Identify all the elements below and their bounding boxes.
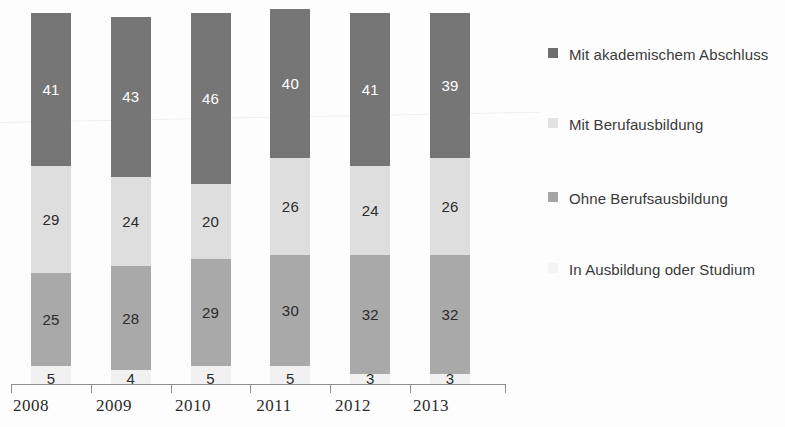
legend-swatch-none-icon	[548, 192, 558, 202]
x-axis-tick-3	[250, 384, 251, 393]
bar-group-2010: 4620295	[191, 13, 231, 385]
legend-item-none[interactable]: Ohne Berufsausbildung	[548, 188, 785, 209]
bar-segment-2010-academic: 46	[191, 13, 231, 184]
bar-segment-2010-none: 29	[191, 259, 231, 367]
bar-group-2009: 4324284	[111, 17, 151, 385]
legend-swatch-intraining-icon	[548, 263, 558, 273]
bar-group-2012: 4124323	[350, 13, 390, 385]
bar-segment-2013-academic: 39	[430, 13, 470, 158]
legend-label-none: Ohne Berufsausbildung	[569, 188, 728, 209]
x-axis-left-cap	[11, 384, 12, 393]
bar-value-label-2010-academic: 46	[202, 91, 219, 106]
bar-segment-2011-intraining: 5	[270, 366, 310, 385]
x-label-2013: 2013	[391, 396, 471, 416]
bar-value-label-2010-none: 29	[202, 305, 219, 320]
bar-value-label-2009-vocational: 24	[122, 214, 139, 229]
legend-item-academic[interactable]: Mit akademischem Abschluss	[548, 44, 785, 65]
bar-value-label-2011-none: 30	[282, 303, 299, 318]
bar-value-label-2012-vocational: 24	[362, 203, 379, 218]
x-axis-labels: 2008 2009 2010 2011 2012 2013	[0, 396, 540, 424]
legend-item-intraining[interactable]: In Ausbildung oder Studium	[548, 259, 785, 280]
bar-value-label-2013-none: 32	[441, 307, 458, 322]
bar-value-label-2013-vocational: 26	[441, 199, 458, 214]
plot-area: 4129255432428446202954026305412432339263…	[0, 0, 540, 392]
bar-value-label-2008-vocational: 29	[42, 212, 59, 227]
bar-value-label-2011-academic: 40	[282, 76, 299, 91]
x-label-2008: 2008	[0, 396, 71, 416]
bar-segment-2009-none: 28	[111, 266, 151, 370]
legend-label-intraining: In Ausbildung oder Studium	[569, 259, 755, 280]
bar-value-label-2012-none: 32	[362, 307, 379, 322]
x-label-2011: 2011	[234, 396, 314, 416]
bar-segment-2013-none: 32	[430, 255, 470, 374]
bar-segment-2008-vocational: 29	[31, 166, 71, 274]
bar-segment-2010-vocational: 20	[191, 184, 231, 258]
bar-value-label-2008-none: 25	[42, 312, 59, 327]
bar-segment-2008-none: 25	[31, 273, 71, 366]
bar-value-label-2009-academic: 43	[122, 89, 139, 104]
x-axis-right-cap	[505, 384, 506, 393]
bar-value-label-2009-none: 28	[122, 311, 139, 326]
bar-group-2013: 3926323	[430, 13, 470, 385]
legend-item-vocational[interactable]: Mit Berufausbildung	[548, 114, 785, 135]
bar-segment-2009-academic: 43	[111, 17, 151, 177]
bar-segment-2011-vocational: 26	[270, 158, 310, 255]
bar-segment-2011-none: 30	[270, 255, 310, 367]
bar-segment-2009-vocational: 24	[111, 177, 151, 266]
legend-label-vocational: Mit Berufausbildung	[569, 114, 703, 135]
bar-group-2008: 4129255	[31, 13, 71, 385]
x-label-2012: 2012	[313, 396, 393, 416]
bar-segment-2012-none: 32	[350, 255, 390, 374]
bar-segment-2012-academic: 41	[350, 13, 390, 166]
x-axis-tick-4	[330, 384, 331, 393]
x-label-2009: 2009	[74, 396, 154, 416]
bar-segment-2008-intraining: 5	[31, 366, 71, 385]
bar-segment-2012-vocational: 24	[350, 166, 390, 255]
legend-swatch-vocational-icon	[548, 118, 558, 128]
bar-segment-2009-intraining: 4	[111, 370, 151, 385]
x-axis-tick-5	[410, 384, 411, 393]
bar-segment-2011-academic: 40	[270, 9, 310, 158]
bar-value-label-2008-academic: 41	[42, 82, 59, 97]
bar-group-2011: 4026305	[270, 9, 310, 385]
x-axis-tick-1	[91, 384, 92, 393]
x-axis-tick-2	[171, 384, 172, 393]
legend-label-academic: Mit akademischem Abschluss	[569, 44, 768, 65]
stacked-bar-chart: 4129255432428446202954026305412432339263…	[0, 0, 785, 427]
bar-value-label-2012-academic: 41	[362, 82, 379, 97]
x-label-2010: 2010	[153, 396, 233, 416]
bar-segment-2008-academic: 41	[31, 13, 71, 166]
chart-legend: Mit akademischem Abschluss Mit Berufausb…	[548, 0, 785, 427]
bar-segment-2013-vocational: 26	[430, 158, 470, 255]
bar-segment-2010-intraining: 5	[191, 366, 231, 385]
legend-swatch-academic-icon	[548, 48, 558, 58]
bar-value-label-2010-vocational: 20	[202, 214, 219, 229]
bar-value-label-2013-academic: 39	[441, 78, 458, 93]
bar-value-label-2011-vocational: 26	[282, 199, 299, 214]
x-axis-line	[11, 384, 506, 385]
